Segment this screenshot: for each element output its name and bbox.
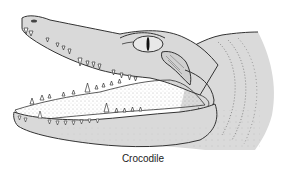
figure: Crocodile [0,0,286,177]
pupil [147,37,150,51]
nostril [31,20,37,23]
figure-caption: Crocodile [0,153,286,164]
crocodile-head-illustration [0,0,286,155]
